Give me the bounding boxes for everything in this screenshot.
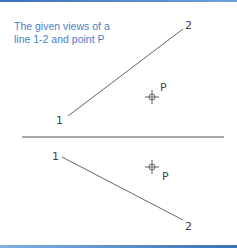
line-1-2-top <box>68 29 183 116</box>
top-view: 1 2 P <box>56 19 192 127</box>
bottom-view: 1 2 P <box>52 150 192 233</box>
label-p-top: P <box>160 81 167 94</box>
orthographic-diagram: 1 2 P 1 2 P <box>0 0 237 248</box>
line-1-2-bottom <box>62 157 183 220</box>
label-p-bottom: P <box>162 170 169 183</box>
label-1-bottom: 1 <box>52 150 59 163</box>
label-2-bottom: 2 <box>185 220 192 233</box>
point-p-marker-bottom-icon <box>145 160 159 174</box>
label-2-top: 2 <box>185 19 192 32</box>
point-p-marker-top-icon <box>145 90 159 104</box>
label-1-top: 1 <box>56 114 63 127</box>
